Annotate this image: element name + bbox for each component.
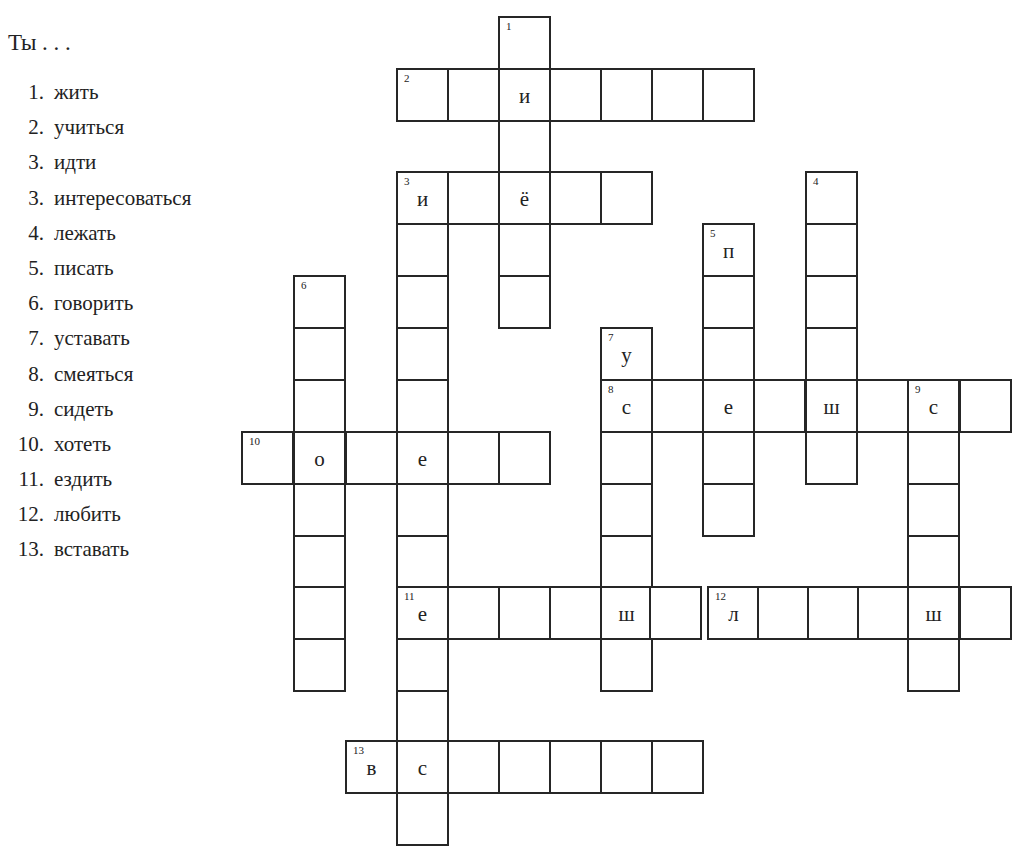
crossword-cell[interactable]: 4 xyxy=(805,171,858,225)
crossword-cell[interactable] xyxy=(549,740,602,794)
clue-number-label: 11 xyxy=(404,590,415,602)
crossword-cell[interactable] xyxy=(856,379,909,433)
given-letter: у xyxy=(602,343,651,368)
crossword-cell[interactable] xyxy=(805,431,858,485)
crossword-cell[interactable] xyxy=(600,483,653,537)
crossword-cell[interactable]: о xyxy=(293,431,346,485)
crossword-cell[interactable] xyxy=(651,68,704,122)
crossword-cell[interactable] xyxy=(753,379,806,433)
crossword-cell[interactable]: 11е xyxy=(396,586,449,640)
crossword-cell[interactable] xyxy=(293,327,346,381)
crossword-cell[interactable]: 8с xyxy=(600,379,653,433)
crossword-cell[interactable] xyxy=(498,740,551,794)
crossword-cell[interactable] xyxy=(805,223,858,277)
crossword-cell[interactable] xyxy=(498,120,551,174)
crossword-cell[interactable] xyxy=(702,483,755,537)
crossword-cell[interactable] xyxy=(959,379,1012,433)
crossword-cell[interactable] xyxy=(396,535,449,589)
crossword-cell[interactable]: ё xyxy=(498,171,551,225)
crossword-cell[interactable] xyxy=(857,586,910,640)
crossword-cell[interactable]: 7у xyxy=(600,327,653,381)
crossword-cell[interactable] xyxy=(396,379,449,433)
crossword-cell[interactable] xyxy=(651,379,704,433)
crossword-cell[interactable] xyxy=(649,586,702,640)
crossword-cell[interactable] xyxy=(600,535,653,589)
crossword-cell[interactable] xyxy=(293,638,346,692)
crossword-cell[interactable] xyxy=(447,431,500,485)
crossword-cell[interactable] xyxy=(293,535,346,589)
crossword-cell[interactable]: 2 xyxy=(396,68,449,122)
crossword-cell[interactable] xyxy=(345,431,398,485)
crossword-cell[interactable] xyxy=(447,586,500,640)
crossword-cell[interactable] xyxy=(293,379,346,433)
crossword-cell[interactable] xyxy=(805,327,858,381)
crossword-cell[interactable] xyxy=(702,275,755,329)
crossword-cell[interactable] xyxy=(293,586,346,640)
given-letter: о xyxy=(295,447,344,472)
crossword-cell[interactable] xyxy=(396,223,449,277)
crossword-cell[interactable]: е xyxy=(702,379,755,433)
crossword-cell[interactable] xyxy=(396,690,449,744)
crossword-cell[interactable] xyxy=(498,223,551,277)
given-letter: е xyxy=(704,395,753,420)
crossword-cell[interactable] xyxy=(805,275,858,329)
crossword-cell[interactable]: 10 xyxy=(241,431,294,485)
crossword-cell[interactable] xyxy=(907,638,960,692)
given-letter: ш xyxy=(909,602,958,627)
crossword-cell[interactable] xyxy=(498,586,551,640)
crossword-cell[interactable]: 5п xyxy=(702,223,755,277)
given-letter: п xyxy=(704,239,753,264)
given-letter: и xyxy=(500,84,549,109)
crossword-cell[interactable] xyxy=(907,431,960,485)
crossword-cell[interactable]: 13в xyxy=(345,740,398,794)
crossword-cell[interactable] xyxy=(600,431,653,485)
given-letter: с xyxy=(398,756,447,781)
clue-number-label: 6 xyxy=(301,279,307,291)
crossword-cell[interactable] xyxy=(959,586,1012,640)
given-letter: ш xyxy=(602,602,651,627)
crossword-cell[interactable] xyxy=(549,68,602,122)
crossword-cell[interactable] xyxy=(396,792,449,846)
crossword-cell[interactable] xyxy=(498,431,551,485)
crossword-cell[interactable] xyxy=(293,483,346,537)
crossword-cell[interactable]: 12л xyxy=(707,586,760,640)
given-letter: л xyxy=(709,602,758,627)
crossword-cell[interactable] xyxy=(447,68,500,122)
clue-number-label: 1 xyxy=(506,20,512,32)
crossword-cell[interactable] xyxy=(498,275,551,329)
crossword-cell[interactable] xyxy=(702,68,755,122)
crossword-cell[interactable] xyxy=(447,740,500,794)
crossword-cell[interactable] xyxy=(907,535,960,589)
given-letter: ш xyxy=(807,395,856,420)
crossword-cell[interactable] xyxy=(702,431,755,485)
crossword-cell[interactable]: и xyxy=(498,68,551,122)
crossword-cell[interactable]: ш xyxy=(805,379,858,433)
given-letter: в xyxy=(347,756,396,781)
crossword-cell[interactable] xyxy=(600,740,653,794)
crossword-cell[interactable] xyxy=(651,740,704,794)
crossword-cell[interactable]: е xyxy=(396,431,449,485)
crossword-cell[interactable]: с xyxy=(396,740,449,794)
crossword-cell[interactable] xyxy=(447,171,500,225)
crossword-cell[interactable] xyxy=(757,586,810,640)
crossword-cell[interactable] xyxy=(600,171,653,225)
crossword-cell[interactable] xyxy=(549,586,602,640)
crossword-cell[interactable] xyxy=(600,638,653,692)
crossword-cell[interactable] xyxy=(549,171,602,225)
crossword-cell[interactable] xyxy=(396,638,449,692)
clue-number-label: 10 xyxy=(249,435,260,447)
crossword-cell[interactable]: 6 xyxy=(293,275,346,329)
crossword-cell[interactable]: 9с xyxy=(907,379,960,433)
crossword-cell[interactable] xyxy=(907,483,960,537)
crossword-cell[interactable] xyxy=(396,483,449,537)
crossword-cell[interactable]: ш xyxy=(600,586,653,640)
crossword-cell[interactable]: ш xyxy=(907,586,960,640)
crossword-cell[interactable]: 1 xyxy=(498,16,551,70)
crossword-cell[interactable] xyxy=(396,327,449,381)
crossword-cell[interactable] xyxy=(396,275,449,329)
crossword-cell[interactable] xyxy=(600,68,653,122)
crossword-cell[interactable]: 3и xyxy=(396,171,449,225)
crossword-cell[interactable] xyxy=(807,586,860,640)
clue-number-label: 5 xyxy=(710,227,716,239)
crossword-cell[interactable] xyxy=(702,327,755,381)
